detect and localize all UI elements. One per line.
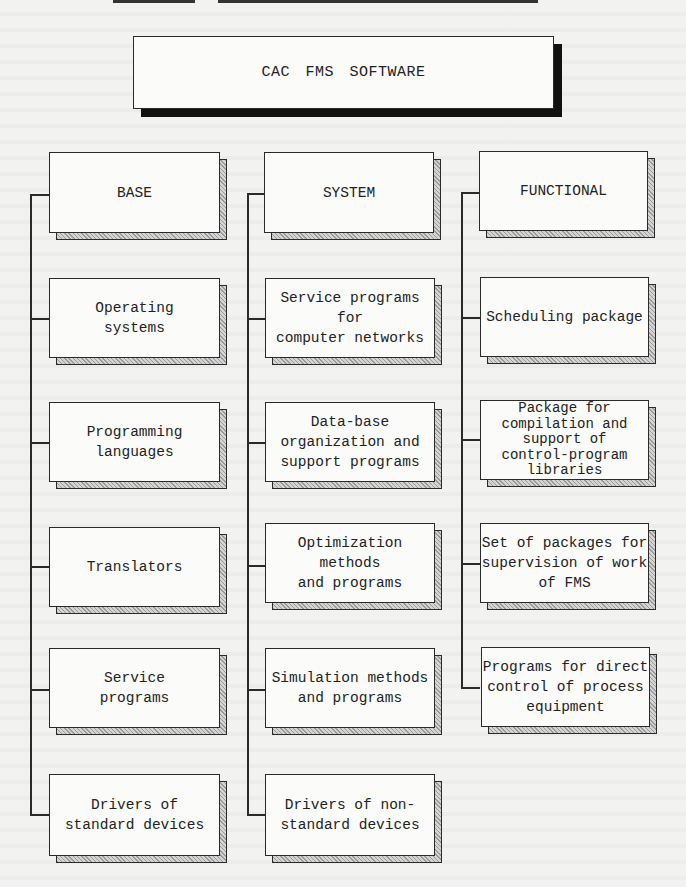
box-label: Programs for direct control of process e… [483, 657, 648, 717]
connector [30, 566, 50, 568]
connector [30, 814, 50, 816]
base-header-label: BASE [117, 183, 152, 203]
simulation-methods-box: Simulation methods and programs [265, 648, 435, 728]
connector [247, 193, 265, 195]
connector [247, 442, 265, 444]
connector [30, 318, 50, 320]
box-label: Drivers of standard devices [65, 795, 204, 835]
connector [30, 689, 50, 691]
operating-systems-box: Operating systems [49, 278, 220, 358]
scheduling-package-box: Scheduling package [480, 277, 649, 357]
connector [461, 317, 480, 319]
box-label: Data-base organization and support progr… [280, 412, 419, 472]
connector [30, 442, 50, 444]
connector [247, 689, 265, 691]
translators-box: Translators [49, 527, 220, 607]
connector [461, 439, 480, 441]
database-programs-box: Data-base organization and support progr… [265, 402, 435, 482]
network-service-programs-box: Service programs for computer networks [265, 278, 435, 358]
connector [247, 318, 265, 320]
nonstandard-drivers-box: Drivers of non- standard devices [265, 774, 435, 856]
title-box: CAC FMS SOFTWARE [133, 36, 554, 109]
box-label: Service programs for computer networks [266, 288, 434, 348]
connector [30, 194, 50, 196]
connector [461, 563, 480, 565]
programming-languages-box: Programming languages [49, 402, 220, 482]
connector [247, 565, 265, 567]
system-header-box: SYSTEM [264, 152, 434, 233]
connector [247, 814, 265, 816]
optimization-methods-box: Optimization methods and programs [265, 523, 435, 603]
service-programs-box: Service programs [49, 648, 220, 728]
box-label: Translators [87, 557, 183, 577]
box-label: Service programs [100, 668, 170, 708]
box-label: Simulation methods and programs [272, 668, 429, 708]
top-rule-left [113, 0, 195, 3]
system-connector-vertical [247, 193, 249, 815]
box-label: Optimization methods and programs [266, 533, 434, 593]
connector [461, 687, 480, 689]
title-label: CAC FMS SOFTWARE [261, 63, 425, 83]
functional-header-label: FUNCTIONAL [520, 181, 607, 201]
box-label: Package for compilation and support of c… [501, 401, 627, 479]
system-header-label: SYSTEM [323, 183, 375, 203]
standard-drivers-box: Drivers of standard devices [49, 774, 220, 856]
box-label: Operating systems [95, 298, 173, 338]
top-rule-right [218, 0, 538, 3]
box-label: Drivers of non- standard devices [280, 795, 419, 835]
compilation-package-box: Package for compilation and support of c… [480, 400, 649, 480]
direct-control-programs-box: Programs for direct control of process e… [481, 647, 650, 727]
supervision-packages-box: Set of packages for supervision of work … [480, 523, 649, 603]
base-connector-vertical [30, 194, 32, 815]
box-label: Set of packages for supervision of work … [482, 533, 647, 593]
box-label: Programming languages [87, 422, 183, 462]
connector [461, 192, 480, 194]
box-label: Scheduling package [486, 307, 643, 327]
functional-header-box: FUNCTIONAL [479, 151, 648, 231]
base-header-box: BASE [49, 152, 220, 233]
